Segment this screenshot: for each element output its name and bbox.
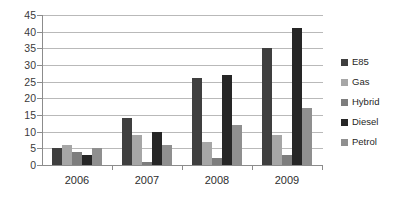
bar — [202, 142, 212, 165]
bar — [282, 155, 292, 165]
chart-legend: E85GasHybridDieselPetrol — [341, 52, 399, 152]
bar — [122, 118, 132, 165]
bar — [222, 75, 232, 165]
legend-label: Petrol — [352, 137, 377, 147]
bar — [132, 135, 142, 165]
y-tick-label: 45 — [2, 10, 36, 20]
legend-swatch-icon — [341, 99, 348, 106]
bar — [232, 125, 242, 165]
legend-item[interactable]: Petrol — [341, 132, 399, 152]
bar — [52, 148, 62, 165]
legend-label: Diesel — [352, 117, 378, 127]
y-tick-label: 30 — [2, 60, 36, 70]
legend-item[interactable]: Gas — [341, 72, 399, 92]
bar — [72, 152, 82, 165]
bar — [82, 155, 92, 165]
y-tick-label: 0 — [2, 160, 36, 170]
x-tick-label: 2009 — [252, 174, 322, 187]
legend-swatch-icon — [341, 59, 348, 66]
bar — [162, 145, 172, 165]
bar-group — [42, 15, 112, 165]
bar — [92, 148, 102, 165]
legend-label: Hybrid — [352, 97, 379, 107]
legend-label: Gas — [352, 77, 369, 87]
y-tick-label: 35 — [2, 43, 36, 53]
legend-item[interactable]: E85 — [341, 52, 399, 72]
y-tick-label: 40 — [2, 27, 36, 37]
legend-item[interactable]: Diesel — [341, 112, 399, 132]
legend-item[interactable]: Hybrid — [341, 92, 399, 112]
x-tick-label: 2007 — [112, 174, 182, 187]
legend-swatch-icon — [341, 119, 348, 126]
x-tick-label: 2006 — [42, 174, 112, 187]
bar — [192, 78, 202, 165]
plot-area — [42, 15, 322, 165]
x-tick-separator — [112, 165, 113, 170]
bar — [152, 132, 162, 165]
bar — [142, 162, 152, 165]
bar-chart: 051015202530354045 2006200720082009 E85G… — [0, 0, 399, 202]
bar — [302, 108, 312, 165]
bar — [292, 28, 302, 165]
bar-group — [252, 15, 322, 165]
x-tick-separator — [252, 165, 253, 170]
bar — [272, 135, 282, 165]
bar-group — [182, 15, 252, 165]
y-tick-label: 10 — [2, 127, 36, 137]
legend-label: E85 — [352, 57, 369, 67]
y-axis-labels: 051015202530354045 — [0, 0, 36, 202]
x-tick-label: 2008 — [182, 174, 252, 187]
y-tick-label: 15 — [2, 110, 36, 120]
bar — [262, 48, 272, 165]
legend-swatch-icon — [341, 79, 348, 86]
bar — [212, 158, 222, 165]
x-tick-separator — [182, 165, 183, 170]
legend-swatch-icon — [341, 139, 348, 146]
bar-group — [112, 15, 182, 165]
bar — [62, 145, 72, 165]
y-tick-label: 20 — [2, 93, 36, 103]
y-tick-label: 25 — [2, 77, 36, 87]
x-tick-separator — [322, 165, 323, 170]
y-tick-label: 5 — [2, 143, 36, 153]
